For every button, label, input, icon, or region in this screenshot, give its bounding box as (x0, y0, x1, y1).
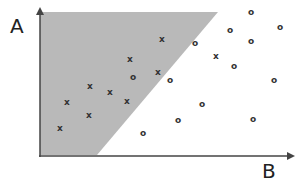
x-marker-icon: x (159, 34, 165, 44)
o-marker-icon: o (192, 38, 198, 48)
x-marker-icon: x (87, 81, 93, 91)
scatter-diagram: xxxxxxxxxxooooooooooooo (0, 0, 306, 185)
o-marker-icon: o (199, 99, 205, 109)
o-marker-icon: o (227, 25, 233, 35)
o-marker-icon: o (250, 114, 256, 124)
x-marker-icon: x (155, 67, 161, 77)
x-marker-icon: x (213, 51, 219, 61)
o-marker-icon: o (167, 75, 173, 85)
o-marker-icon: o (175, 115, 181, 125)
x-marker-icon: x (86, 110, 92, 120)
o-marker-icon: o (130, 72, 136, 82)
y-axis-label: A (10, 16, 24, 36)
x-marker-icon: x (64, 97, 70, 107)
o-marker-icon: o (248, 7, 254, 17)
o-marker-icon: o (271, 75, 277, 85)
o-marker-icon: o (248, 36, 254, 46)
o-marker-icon: o (231, 61, 237, 71)
x-marker-icon: x (124, 96, 130, 106)
o-marker-icon: o (277, 22, 283, 32)
x-axis-label: B (262, 161, 276, 181)
x-axis-arrow-icon (287, 152, 295, 160)
x-marker-icon: x (57, 123, 63, 133)
x-marker-icon: x (107, 87, 113, 97)
o-marker-icon: o (140, 128, 146, 138)
shaded-region (40, 12, 218, 155)
y-axis-arrow-icon (36, 7, 44, 15)
x-marker-icon: x (127, 54, 133, 64)
